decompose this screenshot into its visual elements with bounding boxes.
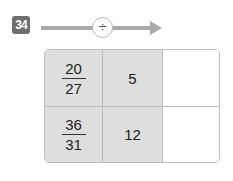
division-table: 20 27 5 36 31 12 bbox=[44, 49, 220, 163]
fraction: 20 27 bbox=[62, 60, 86, 97]
problem-number-badge: 34 bbox=[12, 16, 30, 34]
divisor-cell: 12 bbox=[103, 107, 163, 162]
fraction-bar bbox=[62, 134, 86, 135]
numerator: 36 bbox=[65, 116, 82, 133]
answer-cell[interactable] bbox=[163, 50, 219, 107]
numerator: 20 bbox=[65, 60, 82, 77]
answer-cell[interactable] bbox=[163, 107, 219, 162]
dividend-cell: 20 27 bbox=[45, 50, 103, 107]
denominator: 31 bbox=[65, 136, 82, 153]
divide-operator-icon: ÷ bbox=[92, 17, 113, 38]
divisor-cell: 5 bbox=[103, 50, 163, 107]
arrow-head-icon bbox=[150, 21, 162, 35]
dividend-cell: 36 31 bbox=[45, 107, 103, 162]
fraction: 36 31 bbox=[62, 116, 86, 153]
fraction-bar bbox=[62, 78, 86, 79]
denominator: 27 bbox=[65, 80, 82, 97]
